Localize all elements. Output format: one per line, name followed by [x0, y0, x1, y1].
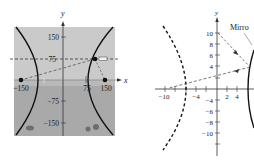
y-axis-arrow-icon: [61, 21, 65, 26]
x-axis-label: x: [123, 76, 128, 85]
x-tick-label: −150: [13, 84, 29, 93]
rock-icon: [86, 127, 91, 132]
right-focus-point: [103, 78, 108, 83]
x-tick-label: 2: [225, 93, 229, 101]
left-focus-point: [19, 78, 24, 83]
y-axis-arrow-icon: [215, 17, 218, 22]
x-tick-label: −4: [192, 93, 200, 101]
right-panel: y 10 8 6 4 −4 −6 −8 −10: [155, 9, 254, 156]
y-tick-label: −10: [202, 130, 213, 138]
x-tick-label: −10: [159, 93, 170, 101]
y-tick-label: −8: [206, 119, 214, 127]
y-tick-label: 10: [206, 30, 214, 38]
incident-ray: [218, 33, 250, 67]
left-panel: y x 150 75 −75 −150 −150 75 150: [10, 9, 128, 136]
x-tick-label: 150: [100, 84, 112, 93]
y-tick-label: 8: [210, 41, 214, 49]
y-tick-label: 4: [210, 63, 214, 71]
hyperbola-figure: y x 150 75 −75 −150 −150 75 150: [0, 0, 254, 160]
y-tick-label: 150: [48, 33, 60, 42]
y-axis-label: y: [60, 9, 65, 18]
y-tick-label: −75: [47, 97, 59, 106]
y-axis-label: y: [214, 9, 219, 17]
y-tick-label: −4: [206, 97, 214, 105]
y-tick-label: 6: [210, 52, 214, 60]
rock-icon: [26, 126, 34, 131]
x-axis-arrow-icon: [117, 78, 122, 81]
sky-background: [14, 27, 115, 80]
plane-icon: [99, 57, 107, 61]
hyperbola-left-branch-dashed: [163, 26, 186, 150]
y-tick-label: −6: [206, 108, 214, 116]
reflection-point: [93, 57, 98, 62]
y-tick-label: −150: [44, 119, 60, 128]
mirror-label: Mirro: [230, 23, 249, 32]
arrowhead-icon: [233, 50, 238, 55]
rock-icon: [93, 124, 99, 130]
x-tick-label: 4: [235, 93, 239, 101]
y-tick-label: 75: [49, 55, 57, 64]
arrowhead-icon: [234, 69, 239, 73]
y-ticks: [215, 33, 220, 144]
mirror-leader-line: [244, 33, 252, 45]
